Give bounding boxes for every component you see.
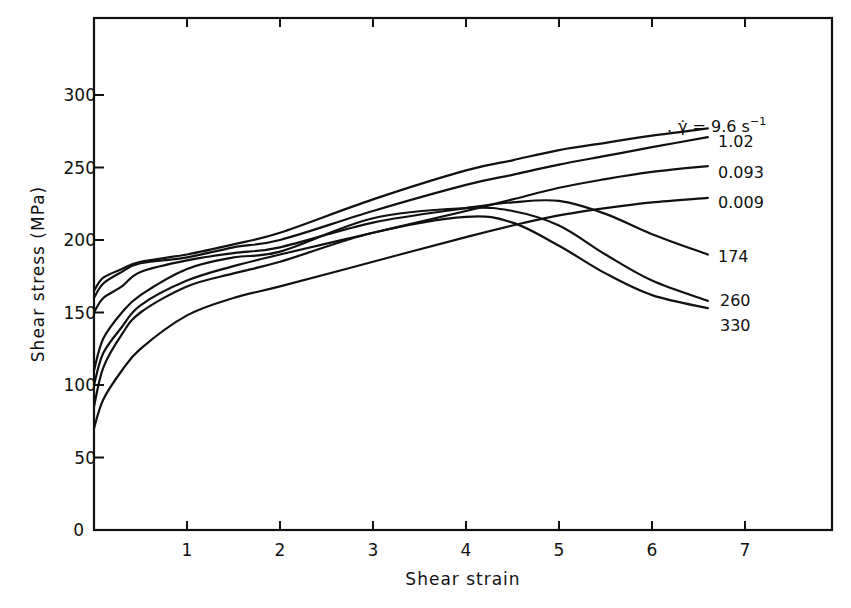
x-axis-title: Shear strain [405,569,520,589]
series-label-0.009: 0.009 [718,193,764,212]
y-tick-label: 0 [73,520,84,540]
x-tick-label: 6 [647,540,658,560]
shear-stress-strain-chart: 050100150200250300 1234567 Shear strain … [0,0,851,608]
series-label-0.093: 0.093 [718,163,764,182]
curve-rate-174 [94,200,708,312]
y-tick-label: 250 [64,158,96,178]
series-label-260: 260 [720,291,751,310]
y-tick-label: 50 [74,448,96,468]
y-axis-ticks: 050100150200250300 [64,85,104,540]
y-tick-label: 100 [64,375,96,395]
legend-rate-unit-exponent: −1 [750,115,766,128]
series-label-1.02: 1.02 [718,132,754,151]
series-label-330: 330 [720,316,751,335]
y-tick-label: 200 [64,230,96,250]
curve-rate-9.6 [94,128,708,290]
x-tick-label: 4 [461,540,472,560]
x-tick-label: 3 [368,540,379,560]
x-tick-label: 5 [554,540,565,560]
curve-rate-260 [94,208,708,371]
series-labels: 1.02 0.093 0.009 174 260 330 [718,132,764,335]
x-tick-label: 2 [275,540,286,560]
curves [94,128,708,428]
y-tick-label: 150 [64,303,96,323]
x-tick-label: 1 [182,540,193,560]
y-tick-label: 300 [64,85,96,105]
curve-rate-0.009 [94,198,708,429]
curve-rate-0.093 [94,166,708,385]
x-tick-label: 7 [740,540,751,560]
y-axis-title: Shear stress (MPa) [28,186,48,362]
series-label-174: 174 [718,247,749,266]
legend-dot: . [667,117,672,136]
curve-rate-330 [94,216,708,407]
